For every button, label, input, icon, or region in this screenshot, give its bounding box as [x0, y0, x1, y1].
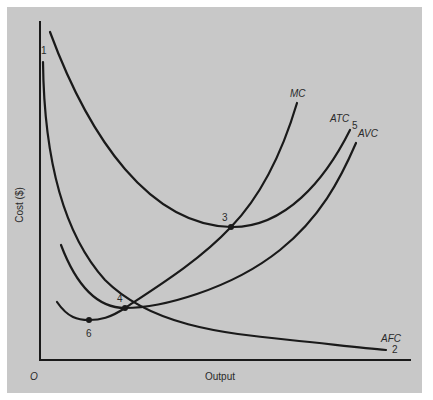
point-4-marker — [122, 305, 128, 311]
point-5-label: 5 — [352, 120, 358, 131]
point-1-label: 1 — [41, 45, 47, 56]
point-4-label: 4 — [117, 293, 123, 304]
avc-curve — [61, 143, 356, 308]
afc-label: AFC — [380, 333, 402, 344]
point-3-marker — [228, 224, 234, 230]
atc-curve — [50, 32, 350, 227]
y-axis-label: Cost ($) — [14, 187, 25, 223]
avc-label: AVC — [357, 128, 379, 139]
atc-label: ATC — [329, 113, 350, 124]
x-axis-label: Output — [205, 371, 235, 382]
point-6-marker — [86, 317, 92, 323]
point-3-label: 3 — [222, 212, 228, 223]
origin-label: O — [30, 371, 38, 382]
cost-curves-chart: MC ATC AVC AFC 1 2 3 4 5 6 O Output Cost… — [0, 0, 433, 400]
axes — [40, 21, 411, 360]
afc-curve — [43, 62, 386, 350]
point-2-label: 2 — [392, 344, 398, 355]
mc-label: MC — [290, 88, 306, 99]
point-6-label: 6 — [86, 328, 92, 339]
